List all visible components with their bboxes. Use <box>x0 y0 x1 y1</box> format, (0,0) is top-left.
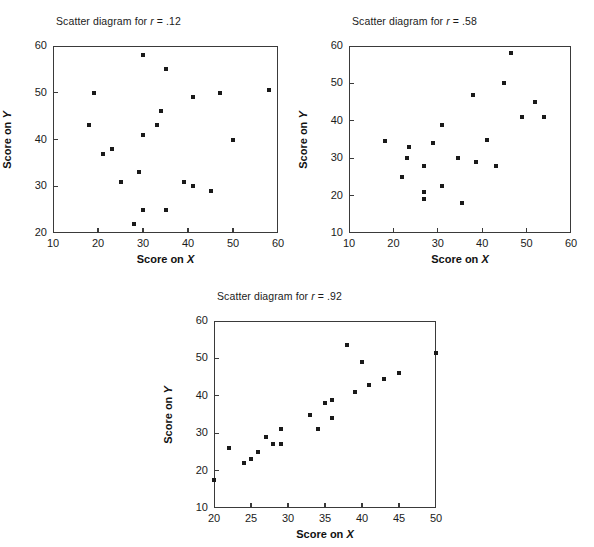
scatter-point <box>242 461 246 465</box>
x-axis-tick <box>250 503 251 508</box>
x-axis-title: Score on X <box>265 528 385 540</box>
y-axis-tick-label: 60 <box>180 314 208 326</box>
scatter-point <box>360 360 364 364</box>
y-axis-title: Score on Y <box>162 355 176 475</box>
x-axis-tick <box>287 503 288 508</box>
scatter-point <box>279 427 283 431</box>
y-axis-title-symbol: Y <box>162 386 174 393</box>
y-axis-title-prefix: Score on <box>162 393 174 443</box>
scatter-point <box>264 435 268 439</box>
x-axis-tick-label: 25 <box>236 512 266 524</box>
x-axis-title-prefix: Score on <box>296 528 346 540</box>
x-axis-tick-label: 30 <box>273 512 303 524</box>
y-axis-tick-label: 20 <box>180 464 208 476</box>
scatter-point <box>345 343 349 347</box>
scatter-point <box>249 457 253 461</box>
scatter-point <box>353 390 357 394</box>
x-axis-title-symbol: X <box>346 528 353 540</box>
x-axis-tick-label: 45 <box>384 512 414 524</box>
scatter-point <box>271 442 275 446</box>
scatter-panel: Scatter diagram for r = .921020304050602… <box>0 0 594 547</box>
y-axis-tick-label: 40 <box>180 389 208 401</box>
y-axis-tick <box>214 395 219 396</box>
scatter-point <box>397 371 401 375</box>
scatter-point <box>382 377 386 381</box>
scatter-point <box>316 427 320 431</box>
x-axis-tick <box>398 503 399 508</box>
y-axis-tick <box>214 433 219 434</box>
scatter-point <box>212 478 216 482</box>
plot-area <box>214 321 436 508</box>
y-axis-tick-label: 30 <box>180 426 208 438</box>
scatter-point <box>227 446 231 450</box>
x-axis-tick-label: 50 <box>421 512 451 524</box>
scatter-point <box>323 401 327 405</box>
scatter-diagram-figure: Scatter diagram for r = .122030405060102… <box>0 0 594 547</box>
x-axis-tick <box>324 503 325 508</box>
x-axis-tick-label: 20 <box>199 512 229 524</box>
scatter-point <box>434 351 438 355</box>
y-axis-tick <box>214 470 219 471</box>
panel-title: Scatter diagram for r = .92 <box>217 290 342 302</box>
y-axis-tick-label: 50 <box>180 351 208 363</box>
scatter-point <box>279 442 283 446</box>
scatter-point <box>367 383 371 387</box>
scatter-point <box>330 416 334 420</box>
x-axis-tick-label: 40 <box>347 512 377 524</box>
panel-title-suffix: = .92 <box>315 290 342 302</box>
scatter-point <box>256 450 260 454</box>
x-axis-tick-label: 35 <box>310 512 340 524</box>
panel-title-prefix: Scatter diagram for <box>217 290 311 302</box>
scatter-point <box>308 413 312 417</box>
y-axis-tick <box>214 358 219 359</box>
x-axis-tick <box>361 503 362 508</box>
scatter-point <box>330 398 334 402</box>
